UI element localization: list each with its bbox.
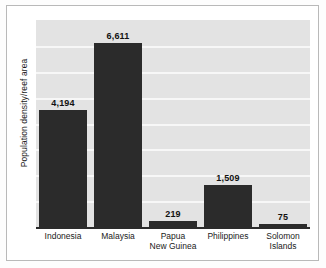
plot-area: 4,1946,6112191,50975 [36,20,310,227]
bar-value-label: 1,509 [216,173,240,183]
y-axis-label: Population density/reef area [19,38,29,188]
x-tick-label: SolomonIslands [259,231,307,251]
x-tick-label-line: New Guinea [149,241,197,251]
x-tick-label-line: Papua [149,231,197,241]
bar-value-label: 219 [165,209,181,219]
bar-group: 75 [259,20,307,227]
bar [204,185,252,227]
bar-group: 1,509 [204,20,252,227]
x-tick-label-line: Islands [259,241,307,251]
x-tick-label: PapuaNew Guinea [149,231,197,251]
bar-value-label: 4,194 [51,98,75,108]
x-tick-label-line: Philippines [204,231,252,241]
bar-value-label: 75 [278,212,288,222]
x-tick-label-line: Indonesia [39,231,87,241]
bar [39,110,87,227]
bar-value-label: 6,611 [106,31,129,41]
x-tick-label-line: Solomon [259,231,307,241]
bar-group: 6,611 [94,20,142,227]
bar-group: 4,194 [39,20,87,227]
x-axis-tick-labels: IndonesiaMalaysiaPapuaNew GuineaPhilippi… [36,231,310,251]
x-tick-label: Philippines [204,231,252,251]
x-axis-line [36,227,310,229]
bar-series: 4,1946,6112191,50975 [36,20,310,227]
bar-chart-figure: Population density/reef area 4,1946,6112… [0,0,326,268]
bar [94,43,142,227]
x-tick-label-line: Malaysia [94,231,142,241]
bar-group: 219 [149,20,197,227]
x-tick-label: Malaysia [94,231,142,251]
x-tick-label: Indonesia [39,231,87,251]
